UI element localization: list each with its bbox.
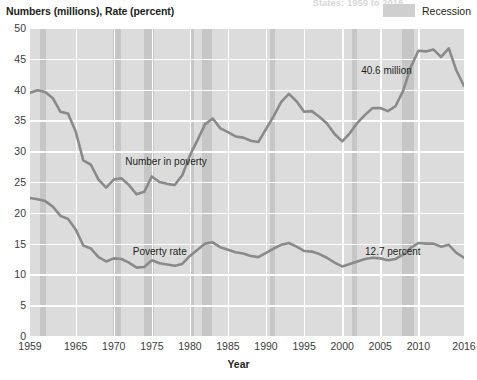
y-tick-label: 25 bbox=[0, 176, 26, 188]
annotation-label: 40.6 million bbox=[361, 65, 412, 76]
y-tick-label: 20 bbox=[0, 207, 26, 219]
x-tick-label: 1965 bbox=[64, 340, 87, 352]
x-tick-label: 2005 bbox=[369, 340, 392, 352]
legend: Recession bbox=[383, 4, 471, 17]
y-tick-label: 50 bbox=[0, 22, 26, 34]
x-tick-label: 2016 bbox=[452, 340, 475, 352]
y-tick-label: 5 bbox=[0, 299, 26, 311]
y-tick-label: 40 bbox=[0, 84, 26, 96]
x-tick-label: 1990 bbox=[254, 340, 277, 352]
x-tick-label: 1980 bbox=[178, 340, 201, 352]
x-tick-label: 1970 bbox=[102, 340, 125, 352]
chart-figure: States: 1959 to 2016 Numbers (millions),… bbox=[0, 0, 477, 380]
legend-label-recession: Recession bbox=[422, 5, 471, 17]
annotation-label: Number in poverty bbox=[125, 156, 207, 167]
x-tick-label: 2000 bbox=[330, 340, 353, 352]
y-tick-label: 45 bbox=[0, 53, 26, 65]
x-tick-label: 1995 bbox=[292, 340, 315, 352]
annotation-label: 12.7 percent bbox=[365, 246, 421, 257]
series-line-poverty-rate bbox=[30, 198, 464, 268]
y-tick-label: 30 bbox=[0, 145, 26, 157]
x-tick-label: 1985 bbox=[216, 340, 239, 352]
y-axis-title: Numbers (millions), Rate (percent) bbox=[6, 5, 174, 17]
y-tick-label: 35 bbox=[0, 114, 26, 126]
recession-swatch bbox=[383, 4, 415, 17]
x-tick-label: 1975 bbox=[140, 340, 163, 352]
x-axis-title: Year bbox=[0, 358, 477, 370]
annotation-label: Poverty rate bbox=[133, 246, 187, 257]
x-tick-label: 2010 bbox=[407, 340, 430, 352]
y-tick-label: 10 bbox=[0, 268, 26, 280]
y-tick-label: 15 bbox=[0, 238, 26, 250]
x-tick-label: 1959 bbox=[18, 340, 41, 352]
